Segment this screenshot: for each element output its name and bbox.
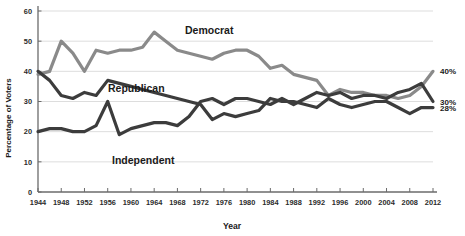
y-tick-label: 20 <box>24 127 32 136</box>
gridlines <box>38 11 433 162</box>
y-tick-label: 0 <box>28 188 32 197</box>
x-tick-label: 1948 <box>53 198 69 207</box>
series-annotation-democrat: Democrat <box>185 24 234 36</box>
x-tick-label: 1988 <box>285 198 301 207</box>
x-tick-label: 2008 <box>402 198 418 207</box>
x-tick-label: 1992 <box>309 198 325 207</box>
x-tick-label: 1964 <box>146 198 163 207</box>
y-axis-tick-labels: 0102030405060 <box>24 7 32 197</box>
x-tick-label: 1976 <box>216 198 232 207</box>
x-tick-label: 1980 <box>239 198 255 207</box>
x-tick-label: 1972 <box>192 198 208 207</box>
x-tick-label: 1968 <box>169 198 185 207</box>
x-axis-tick-labels: 1944194819521956196019641968197219761980… <box>30 198 441 207</box>
end-label-democrat: 40% <box>440 67 456 76</box>
x-tick-label: 1960 <box>123 198 139 207</box>
data-series <box>38 32 433 135</box>
y-axis-title: Percentage of Voters <box>4 78 13 158</box>
y-tick-label: 30 <box>24 97 32 106</box>
chart-canvas: 0102030405060 19441948195219561960196419… <box>0 0 465 236</box>
series-end-labels: 40%28%30% <box>440 67 456 112</box>
y-tick-label: 50 <box>24 37 32 46</box>
x-axis-title: Year <box>223 221 242 231</box>
y-tick-label: 10 <box>24 158 32 167</box>
x-tick-label: 1944 <box>30 198 47 207</box>
x-tick-label: 1984 <box>262 198 279 207</box>
x-tick-label: 1996 <box>332 198 348 207</box>
x-tick-label: 2012 <box>425 198 441 207</box>
series-annotation-republican: Republican <box>108 82 165 94</box>
x-tick-label: 2000 <box>355 198 371 207</box>
series-line-democrat <box>38 32 433 98</box>
x-tick-label: 2004 <box>378 198 395 207</box>
x-tick-label: 1956 <box>99 198 115 207</box>
series-line-independent <box>38 83 433 134</box>
end-label-independent: 30% <box>440 98 456 107</box>
y-tick-label: 40 <box>24 67 32 76</box>
y-tick-label: 60 <box>24 7 32 16</box>
party-identification-line-chart: 0102030405060 19441948195219561960196419… <box>0 0 465 236</box>
x-tick-label: 1952 <box>76 198 92 207</box>
series-annotation-independent: Independent <box>112 154 175 166</box>
